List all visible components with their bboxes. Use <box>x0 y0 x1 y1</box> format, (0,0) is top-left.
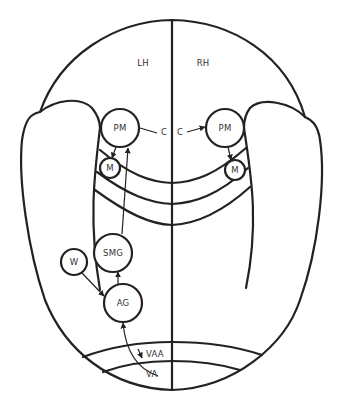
node-pm-right: PM <box>206 109 244 147</box>
right-temporal-inner <box>244 128 253 288</box>
node-ag: AG <box>104 284 142 322</box>
va-label: VA <box>146 369 158 379</box>
ag-label: AG <box>117 298 130 308</box>
edge-c-pm-right <box>187 127 205 132</box>
left-temporal-lobe <box>21 101 100 300</box>
node-w: W <box>61 249 87 275</box>
edge-pm-m-right <box>228 147 231 160</box>
smg-label: SMG <box>103 248 123 258</box>
right-temporal-lobe <box>244 102 322 300</box>
rh-label: RH <box>197 58 210 68</box>
node-smg: SMG <box>94 234 132 272</box>
pm-right-label: PM <box>219 123 232 133</box>
vaa-label: VAA <box>146 349 164 359</box>
m-left-label: M <box>106 163 114 173</box>
lh-label: LH <box>137 58 149 68</box>
node-pm-left: PM <box>101 109 139 147</box>
c-left-label: C <box>161 127 167 137</box>
brain-diagram: PM PM M M SMG W AG LH RH C C VAA VA <box>0 0 338 409</box>
edge-pm-c-left <box>140 128 157 133</box>
m-right-label: M <box>231 165 239 175</box>
w-label: W <box>70 257 79 267</box>
pm-left-label: PM <box>114 123 127 133</box>
node-m-right: M <box>225 160 245 180</box>
edge-pm-m-left <box>112 147 116 158</box>
edge-vaa-va <box>138 349 142 358</box>
c-right-label: C <box>177 127 183 137</box>
node-m-left: M <box>100 158 120 178</box>
edge-w-ag <box>82 273 104 296</box>
